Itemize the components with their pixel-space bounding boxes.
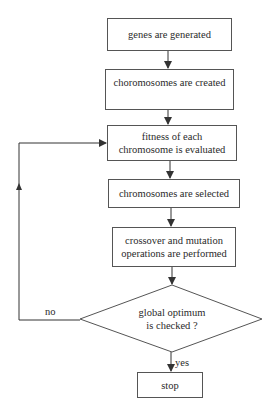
node-fitness-evaluated: fitness of each chromosome is evaluated bbox=[107, 125, 237, 161]
loop-line-no bbox=[19, 143, 106, 320]
node-text-line-2: chromosome is evaluated bbox=[119, 143, 226, 156]
node-text: choromosomes are created bbox=[114, 76, 226, 89]
node-text-line-2: operations are performed bbox=[121, 247, 227, 260]
flowchart-connectors bbox=[0, 0, 276, 419]
node-text-line-1: fitness of each bbox=[142, 130, 203, 143]
loop-up-arrowhead bbox=[16, 183, 22, 190]
node-genes-generated: genes are generated bbox=[107, 18, 232, 51]
decision-text-line-2: is checked ? bbox=[112, 319, 232, 332]
node-stop: stop bbox=[137, 372, 203, 398]
edge-label-no: no bbox=[45, 306, 56, 318]
edge-label-yes: yes bbox=[175, 357, 189, 369]
node-text: chromosomes are selected bbox=[119, 187, 229, 200]
node-crossover-mutation: crossover and mutation operations are pe… bbox=[112, 227, 236, 267]
node-text: genes are generated bbox=[128, 28, 211, 41]
node-text-line-1: crossover and mutation bbox=[125, 234, 223, 247]
decision-text-line-1: global optimum bbox=[112, 306, 232, 319]
decision-text: global optimum is checked ? bbox=[112, 306, 232, 332]
clipped-caption bbox=[8, 414, 98, 419]
node-text: stop bbox=[161, 379, 179, 392]
node-chromosomes-created: choromosomes are created bbox=[105, 69, 234, 110]
node-chromosomes-selected: chromosomes are selected bbox=[108, 179, 240, 208]
